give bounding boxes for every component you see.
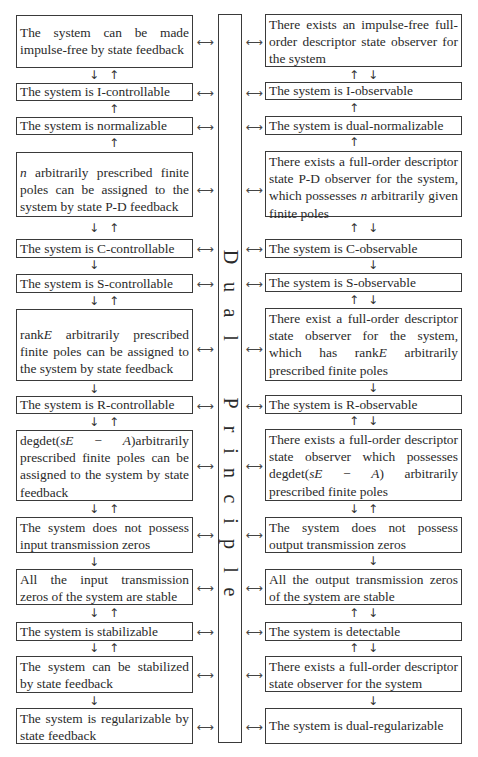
bidirectional-arrow: ⟷ xyxy=(194,400,216,412)
bidirectional-arrow: ⟷ xyxy=(243,121,265,133)
up-arrow: ↑ xyxy=(349,102,359,114)
box-text: rank xyxy=(20,327,44,342)
box-text: degdet( xyxy=(20,433,60,448)
bidirectional-arrow: ⟷ xyxy=(194,582,216,594)
dual-letter: l xyxy=(221,558,241,582)
bidirectional-arrow: ⟷ xyxy=(194,626,216,638)
left-box-s-controllable: The system is S-controllable xyxy=(16,274,193,293)
box-text: The system can be stabilized by state fe… xyxy=(20,659,189,691)
up-arrow: ↑ xyxy=(349,294,359,306)
up-arrow: ↑ xyxy=(349,69,359,81)
dual-letter: u xyxy=(221,275,241,299)
box-text: There exists a full-order descriptor sta… xyxy=(269,659,458,691)
down-arrow: ↓ xyxy=(89,556,99,568)
right-box-s-observable: The system is S-observable xyxy=(265,273,462,292)
box-text: The system does not possess output trans… xyxy=(269,520,458,552)
bidirectional-arrow: ⟷ xyxy=(243,529,265,541)
box-text: The system is dual-regularizable xyxy=(269,717,443,734)
right-box-dual-regularizable: The system is dual-regularizable xyxy=(265,708,462,744)
bidirectional-arrow: ⟷ xyxy=(243,36,265,48)
box-text: All the output transmission zeros of the… xyxy=(269,572,458,604)
down-arrow: ↓ xyxy=(368,222,378,234)
up-arrow: ↑ xyxy=(368,503,378,515)
up-arrow: ↑ xyxy=(349,642,359,654)
bidirectional-arrow: ⟷ xyxy=(194,343,216,355)
up-arrow: ↑ xyxy=(349,415,359,427)
down-arrow: ↓ xyxy=(349,503,359,515)
box-text: There exists an impulse-free full-order … xyxy=(269,17,458,66)
bidirectional-arrow: ⟷ xyxy=(194,278,216,290)
up-arrow: ↑ xyxy=(109,503,119,515)
bidirectional-arrow: ⟷ xyxy=(243,278,265,290)
right-box-detectable: The system is detectable xyxy=(265,622,462,641)
box-text: The system does not possess input transm… xyxy=(20,520,189,552)
box-text: All the input transmission zeros of the … xyxy=(20,572,189,604)
left-box-pd-feedback-poles: n arbitrarily prescribed finite poles ca… xyxy=(16,152,193,217)
dual-letter: n xyxy=(221,461,241,485)
box-text: The system is S-controllable xyxy=(20,275,173,292)
up-arrow: ↑ xyxy=(109,222,119,234)
math-var: E xyxy=(379,345,387,360)
box-text: − xyxy=(74,433,123,448)
dual-letter: c xyxy=(221,487,241,511)
bidirectional-arrow: ⟷ xyxy=(243,721,265,733)
down-arrow: ↓ xyxy=(89,259,99,271)
dual-principle-bar: D u a l P r i n c i p l e xyxy=(218,14,242,743)
bidirectional-arrow: ⟷ xyxy=(243,460,265,472)
up-arrow: ↑ xyxy=(109,607,119,619)
down-arrow: ↓ xyxy=(368,259,378,271)
right-box-output-zeros-stable: All the output transmission zeros of the… xyxy=(265,569,462,605)
box-text: The system is I-controllable xyxy=(20,83,170,100)
box-text: The system is R-controllable xyxy=(20,396,174,413)
bidirectional-arrow: ⟷ xyxy=(194,87,216,99)
up-arrow: ↑ xyxy=(349,136,359,148)
box-text: The system is dual-normalizable xyxy=(269,117,443,134)
down-arrow: ↓ xyxy=(89,695,99,707)
left-box-normalizable: The system is normalizable xyxy=(16,117,193,135)
right-box-rank-e-observer: There exist a full-order descriptor stat… xyxy=(265,308,462,381)
down-arrow: ↓ xyxy=(89,607,99,619)
math-var: n xyxy=(20,165,27,180)
bidirectional-arrow: ⟷ xyxy=(194,243,216,255)
down-arrow: ↓ xyxy=(368,294,378,306)
down-arrow: ↓ xyxy=(89,416,99,428)
math-var: A xyxy=(123,433,131,448)
bidirectional-arrow: ⟷ xyxy=(194,121,216,133)
down-arrow: ↓ xyxy=(368,695,378,707)
right-box-i-observable: The system is I-observable xyxy=(265,82,462,100)
down-arrow: ↓ xyxy=(368,555,378,567)
up-arrow: ↑ xyxy=(109,103,119,115)
up-arrow: ↑ xyxy=(109,295,119,307)
right-box-r-observable: The system is R-observable xyxy=(265,395,462,414)
up-arrow: ↑ xyxy=(349,222,359,234)
right-box-dual-normalizable: The system is dual-normalizable xyxy=(265,116,462,135)
dual-letter: r xyxy=(221,417,241,441)
left-box-i-controllable: The system is I-controllable xyxy=(16,83,193,101)
left-box-rank-e-poles: rankE arbitrarily prescribed finite pole… xyxy=(16,309,193,381)
down-arrow: ↓ xyxy=(89,69,99,81)
left-box-r-controllable: The system is R-controllable xyxy=(16,396,193,414)
left-box-stabilizable: The system is stabilizable xyxy=(16,622,193,641)
down-arrow: ↓ xyxy=(89,503,99,515)
up-arrow: ↑ xyxy=(109,137,119,149)
bidirectional-arrow: ⟷ xyxy=(243,582,265,594)
down-arrow: ↓ xyxy=(368,69,378,81)
box-text: The system is C-observable xyxy=(269,240,417,257)
right-box-degdet-observer: There exists a full-order descriptor sta… xyxy=(265,429,462,501)
right-box-impulse-free-observer: There exists an impulse-free full-order … xyxy=(265,14,462,67)
box-text: The system is normalizable xyxy=(20,117,167,134)
bidirectional-arrow: ⟷ xyxy=(194,36,216,48)
box-text: arbitrarily prescribed finite poles can … xyxy=(20,165,189,214)
bidirectional-arrow: ⟷ xyxy=(243,669,265,681)
box-text: The system is R-observable xyxy=(269,396,417,413)
dual-letter: a xyxy=(221,301,241,325)
bidirectional-arrow: ⟷ xyxy=(243,243,265,255)
box-text: The system is I-observable xyxy=(269,82,413,99)
up-arrow: ↑ xyxy=(109,642,119,654)
left-box-impulse-free-feedback: The system can be made impulse-free by s… xyxy=(16,15,193,68)
box-text: The system is regularizable by state fee… xyxy=(20,711,189,743)
down-arrow: ↓ xyxy=(89,295,99,307)
down-arrow: ↓ xyxy=(368,415,378,427)
right-box-c-observable: The system is C-observable xyxy=(265,239,462,258)
box-text: The system is detectable xyxy=(269,623,400,640)
